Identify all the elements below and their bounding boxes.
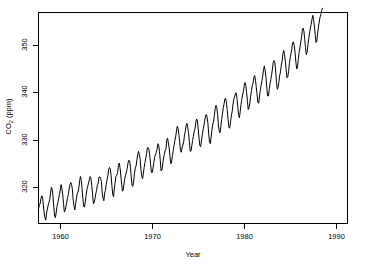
ytick-mark-320 <box>33 187 38 188</box>
ytick-mark-340 <box>33 92 38 93</box>
ytick-label-340: 340 <box>20 80 29 104</box>
ytick-label-350: 350 <box>20 33 29 57</box>
ytick-mark-330 <box>33 140 38 141</box>
y-axis-title-subscript: 2 <box>7 120 13 123</box>
ytick-label-330: 330 <box>20 128 29 152</box>
xtick-label-1990: 1990 <box>320 232 353 241</box>
xtick-mark-1980 <box>244 224 245 229</box>
xtick-mark-1990 <box>336 224 337 229</box>
y-axis-title-text: CO <box>4 123 13 134</box>
xtick-mark-1960 <box>60 224 61 229</box>
y-axis-title: CO2 (ppm) <box>4 86 13 148</box>
y-axis-title-unit: (ppm) <box>4 98 13 120</box>
co2-line-series <box>0 0 366 269</box>
ytick-label-320: 320 <box>20 175 29 199</box>
chart-figure: 350 340 330 320 1960 1970 1980 1990 CO2 … <box>0 0 366 269</box>
xtick-label-1970: 1970 <box>136 232 169 241</box>
xtick-mark-1970 <box>152 224 153 229</box>
x-axis-title: Year <box>163 250 223 259</box>
xtick-label-1980: 1980 <box>228 232 261 241</box>
ytick-mark-350 <box>33 45 38 46</box>
xtick-label-1960: 1960 <box>44 232 77 241</box>
